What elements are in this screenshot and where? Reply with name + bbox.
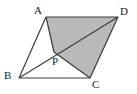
label-C: C	[92, 79, 99, 90]
label-A: A	[34, 5, 42, 16]
label-D: D	[120, 6, 128, 17]
geometry-figure: A D B C P	[0, 0, 137, 94]
geometry-canvas	[0, 0, 137, 94]
label-B: B	[4, 70, 11, 81]
edge-BA	[19, 17, 46, 78]
shaded-region-ADCP	[46, 17, 118, 78]
label-P: P	[52, 56, 58, 67]
